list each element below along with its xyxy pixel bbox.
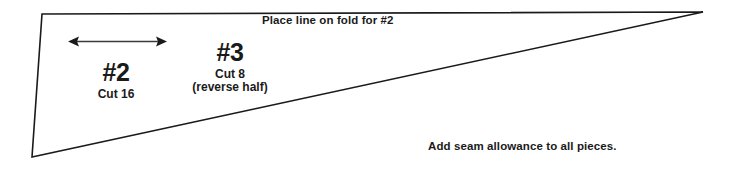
piece-3-cut-count: Cut 8 bbox=[178, 68, 282, 81]
piece-2-number: #2 bbox=[66, 58, 166, 86]
piece-label-3: #3 Cut 8 (reverse half) bbox=[178, 38, 282, 95]
piece-label-2: #2 Cut 16 bbox=[66, 58, 166, 101]
piece-3-reverse-note: (reverse half) bbox=[178, 81, 282, 94]
piece-2-cut-count: Cut 16 bbox=[66, 88, 166, 101]
seam-allowance-note: Add seam allowance to all pieces. bbox=[428, 140, 617, 153]
piece-3-number: #3 bbox=[178, 38, 282, 66]
fold-line-note: Place line on fold for #2 bbox=[262, 14, 394, 27]
